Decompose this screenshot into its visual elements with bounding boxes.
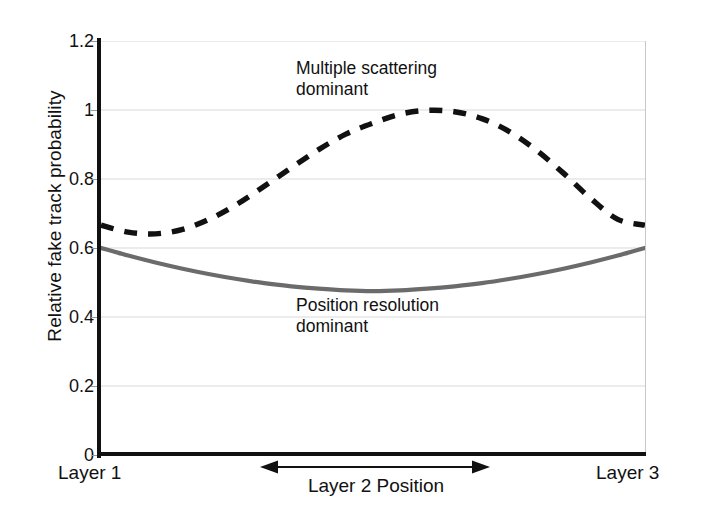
chart-figure: Relative fake track probability 1.2 1 0.… bbox=[0, 0, 713, 511]
position-resolution-annotation: Position resolution dominant bbox=[296, 295, 439, 336]
x-category-label-layer-3: Layer 3 bbox=[596, 462, 659, 484]
x-category-label-layer-1: Layer 1 bbox=[58, 462, 121, 484]
plot-frame-right bbox=[645, 41, 646, 455]
x-axis-spine bbox=[97, 452, 646, 456]
y-axis-spine bbox=[97, 38, 101, 458]
y-tick-label-0.2: 0.2 bbox=[48, 377, 94, 395]
y-tick-label-0.8: 0.8 bbox=[48, 170, 94, 188]
y-tick-label-1: 1 bbox=[48, 101, 94, 119]
y-tick-label-0.4: 0.4 bbox=[48, 308, 94, 326]
plot-svg bbox=[101, 41, 646, 456]
y-tick-label-1.2: 1.2 bbox=[48, 32, 94, 50]
multiple-scattering-annotation: Multiple scattering dominant bbox=[296, 58, 437, 99]
x-axis-title: Layer 2 Position bbox=[248, 475, 504, 497]
multiple-scattering-curve bbox=[101, 110, 645, 234]
plot-area bbox=[101, 41, 645, 455]
y-tick-label-0.6: 0.6 bbox=[48, 239, 94, 257]
double-arrow-icon bbox=[260, 458, 490, 476]
y-axis-tick-labels: 1.2 1 0.8 0.6 0.4 0.2 0 bbox=[42, 0, 94, 511]
position-resolution-curve bbox=[101, 248, 645, 291]
